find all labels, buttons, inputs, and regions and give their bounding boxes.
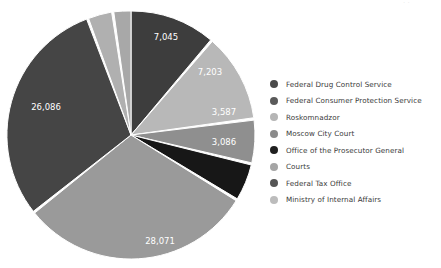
legend-item-label: Federal Drug Control Service [286,80,392,89]
slice-value-label-courts: 26,086 [31,102,61,112]
legend-swatch-icon [270,113,278,121]
legend-swatch-icon [270,130,278,138]
legend-item-label: Moscow City Court [286,129,354,138]
legend-swatch-icon [270,97,278,105]
legend-item-label: Federal Consumer Protection Service [286,96,422,105]
legend-item-courts[interactable]: Courts [270,159,441,176]
legend-item-federal-tax-office[interactable]: Federal Tax Office [270,175,441,192]
slice-value-label-roskomnadzor: 3,587 [212,107,236,117]
corner-artifact-text: · · [403,0,439,7]
legend-swatch-icon [270,80,278,88]
legend-item-federal-consumer-protection-service[interactable]: Federal Consumer Protection Service [270,93,441,110]
slice-value-label-federal-consumer-protection-service: 7,203 [198,67,222,77]
legend-swatch-icon [270,146,278,154]
legend-item-ministry-of-internal-affairs[interactable]: Ministry of Internal Affairs [270,192,441,209]
chart-figure: 7,045 7,203 3,587 3,086 28,071 26,086 Fe… [0,0,441,268]
legend-item-label: Courts [286,162,310,171]
corner-artifact: · · [403,0,439,7]
pie-chart-svg: 7,045 7,203 3,587 3,086 28,071 26,086 [0,0,262,268]
legend-item-moscow-city-court[interactable]: Moscow City Court [270,126,441,143]
legend-swatch-icon [270,196,278,204]
legend-item-label: Ministry of Internal Affairs [286,195,381,204]
legend-swatch-icon [270,163,278,171]
legend-item-label: Roskomnadzor [286,113,340,122]
legend-item-label: Office of the Prosecutor General [286,146,404,155]
slice-value-label-federal-drug-control-service: 7,045 [154,32,178,42]
legend-swatch-icon [270,179,278,187]
pie-chart: 7,045 7,203 3,587 3,086 28,071 26,086 [0,0,262,268]
chart-legend: Federal Drug Control Service Federal Con… [270,76,441,208]
legend-item-federal-drug-control-service[interactable]: Federal Drug Control Service [270,76,441,93]
slice-value-label-office-of-the-prosecutor-general: 28,071 [145,236,175,246]
slice-value-label-moscow-city-court: 3,086 [212,137,236,147]
legend-item-label: Federal Tax Office [286,179,351,188]
legend-item-roskomnadzor[interactable]: Roskomnadzor [270,109,441,126]
legend-item-office-of-the-prosecutor-general[interactable]: Office of the Prosecutor General [270,142,441,159]
